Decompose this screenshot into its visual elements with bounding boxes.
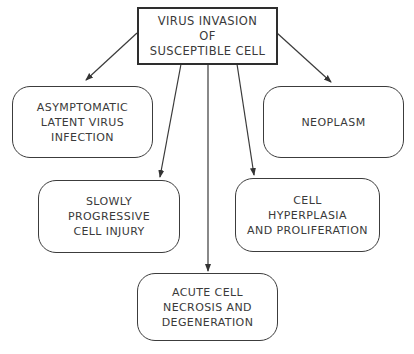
root-line-2: OF — [199, 29, 215, 44]
root-node-virus-invasion: VIRUS INVASION OF SUSCEPTIBLE CELL — [137, 7, 278, 65]
slowly-line-3: CELL INJURY — [73, 224, 144, 239]
asymptomatic-line-3: INFECTION — [51, 130, 114, 145]
asymptomatic-line-1: ASYMPTOMATIC — [37, 100, 128, 115]
arrow-to-hyperplasia — [237, 64, 254, 175]
arrow-to-neoplasm — [277, 33, 331, 82]
arrow-to-asymptomatic — [86, 33, 137, 80]
node-acute-cell-necrosis: ACUTE CELL NECROSIS AND DEGENERATION — [137, 273, 278, 341]
slowly-line-2: PROGRESSIVE — [68, 209, 150, 224]
neoplasm-line-1: NEOPLASM — [301, 115, 365, 130]
acute-line-2: NECROSIS AND — [163, 300, 252, 315]
hyperplasia-line-3: AND PROLIFERATION — [247, 223, 368, 238]
asymptomatic-line-2: LATENT VIRUS — [41, 115, 124, 130]
diagram-canvas: VIRUS INVASION OF SUSCEPTIBLE CELL ASYMP… — [0, 0, 414, 354]
node-asymptomatic-latent-infection: ASYMPTOMATIC LATENT VIRUS INFECTION — [12, 86, 153, 158]
node-cell-hyperplasia-proliferation: CELL HYPERPLASIA AND PROLIFERATION — [235, 178, 380, 252]
node-slowly-progressive-cell-injury: SLOWLY PROGRESSIVE CELL INJURY — [38, 180, 180, 253]
arrow-to-slowly-progressive — [160, 64, 181, 177]
root-line-1: VIRUS INVASION — [158, 14, 258, 29]
root-line-3: SUSCEPTIBLE CELL — [150, 44, 265, 59]
node-neoplasm: NEOPLASM — [263, 86, 404, 158]
slowly-line-1: SLOWLY — [86, 194, 132, 209]
hyperplasia-line-1: CELL — [293, 193, 322, 208]
acute-line-1: ACUTE CELL — [172, 285, 243, 300]
hyperplasia-line-2: HYPERPLASIA — [268, 208, 347, 223]
acute-line-3: DEGENERATION — [162, 315, 254, 330]
